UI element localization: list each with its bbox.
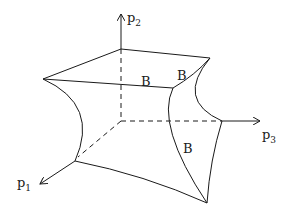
- p3-label: p3: [262, 127, 276, 145]
- diagram-canvas: p2 p3 p1 B B B: [0, 0, 291, 213]
- boundary-label-top-front: B: [141, 74, 151, 89]
- boundary-label-top-right: B: [177, 68, 187, 83]
- bottom-edge: [75, 161, 207, 203]
- p1-axis-hidden: [78, 121, 121, 157]
- right-edge: [207, 121, 222, 203]
- left-curved-boundary: [43, 79, 83, 161]
- p1-axis: [40, 161, 75, 184]
- p2-label: p2: [127, 10, 141, 28]
- boundary-label-right-face: B: [183, 141, 193, 156]
- right-back-curved-boundary: [195, 58, 222, 121]
- p1-label: p1: [17, 175, 31, 193]
